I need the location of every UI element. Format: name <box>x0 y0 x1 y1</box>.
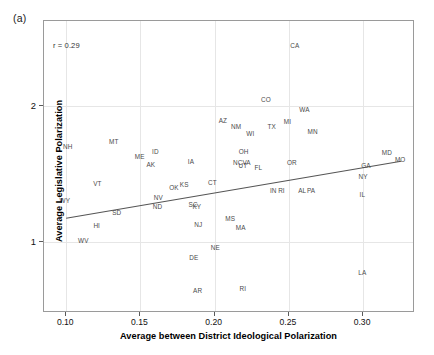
data-point-label: GA <box>361 163 370 169</box>
data-point-label: LA <box>358 270 366 276</box>
data-point-label: KS <box>180 182 189 188</box>
data-point-label: NM <box>231 124 241 130</box>
data-point-label: OR <box>287 160 297 166</box>
data-point-label: VT <box>93 181 101 187</box>
data-point-label: IA <box>188 158 194 164</box>
y-axis-title: Average Legislative Polarization <box>54 25 64 317</box>
figure-panel: (a) CACOWAMIAZNMTXMNWINHMTIDMEOHMDMOIAAK… <box>0 0 434 355</box>
data-point-label: MA <box>236 225 246 231</box>
x-tick-mark <box>139 312 140 316</box>
data-point-label: IL <box>360 192 366 198</box>
x-tick-mark <box>65 312 66 316</box>
trendline <box>44 21 413 311</box>
data-point-label: HI <box>93 222 100 228</box>
x-tick-label: 0.20 <box>205 317 222 327</box>
data-point-label: AZ <box>219 118 227 124</box>
panel-label: (a) <box>13 12 26 24</box>
x-tick-mark <box>362 312 363 316</box>
data-point-label: AL <box>298 188 306 194</box>
data-point-label: MO <box>395 157 406 163</box>
data-point-label: MI <box>284 119 291 125</box>
x-tick-mark <box>288 312 289 316</box>
data-point-label: AK <box>146 162 155 168</box>
data-point-label: NJ <box>194 222 202 228</box>
x-tick-label: 0.30 <box>354 317 371 327</box>
data-point-label: ID <box>152 149 159 155</box>
x-tick-label: 0.10 <box>57 317 74 327</box>
y-tick-label: 2 <box>31 99 36 110</box>
x-axis-title: Average between District Ideological Pol… <box>43 331 414 341</box>
x-tick-mark <box>214 312 215 316</box>
data-point-label: NY <box>359 173 368 179</box>
data-point-label: SD <box>112 210 121 216</box>
data-point-label: RI <box>278 188 285 194</box>
x-tick-label: 0.25 <box>279 317 296 327</box>
data-point-label: WV <box>78 237 89 243</box>
data-point-label: TX <box>268 124 276 130</box>
data-point-label: UT <box>239 163 248 169</box>
data-point-label: NV <box>154 194 163 200</box>
data-point-label: DE <box>189 255 198 261</box>
data-point-label: CA <box>290 43 299 49</box>
data-point-label: WI <box>246 131 254 137</box>
y-tick-mark <box>39 105 43 106</box>
y-tick-mark <box>39 241 43 242</box>
data-point-label: ME <box>135 154 145 160</box>
data-point-label: ND <box>153 204 162 210</box>
data-point-label: MD <box>382 149 392 155</box>
data-point-label: CO <box>261 97 271 103</box>
data-point-label: KY <box>192 204 201 210</box>
plot-area: CACOWAMIAZNMTXMNWINHMTIDMEOHMDMOIAAKNCVA… <box>43 20 414 312</box>
data-point-label: RI <box>240 286 247 292</box>
data-point-label: AR <box>193 288 202 294</box>
data-point-label: PA <box>307 188 315 194</box>
data-point-label: CT <box>208 179 217 185</box>
x-tick-label: 0.15 <box>131 317 148 327</box>
data-point-label: MT <box>109 139 118 145</box>
data-point-label: NH <box>63 143 72 149</box>
data-point-label: WA <box>299 107 309 113</box>
data-point-label: IN <box>270 188 277 194</box>
data-point-label: MN <box>308 129 318 135</box>
y-tick-label: 1 <box>31 236 36 247</box>
data-point-label: OK <box>169 185 178 191</box>
data-point-label: MS <box>225 216 235 222</box>
data-point-label: OH <box>239 149 249 155</box>
data-point-label: FL <box>255 165 263 171</box>
data-point-label: NE <box>211 245 220 251</box>
